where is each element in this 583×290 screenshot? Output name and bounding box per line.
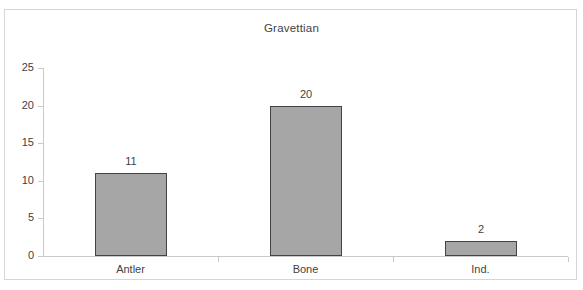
- x-axis-boundary-tick: [568, 257, 569, 262]
- bar-value-label-bone: 20: [266, 88, 346, 100]
- y-axis-tick-label-5: 5: [4, 211, 34, 223]
- y-axis-tick-10: [38, 181, 43, 182]
- x-axis-line: [43, 256, 568, 257]
- x-axis-category-label-antler: Antler: [43, 263, 218, 275]
- x-axis-boundary-tick: [218, 257, 219, 262]
- bar-bone: [270, 106, 342, 256]
- y-axis-line: [43, 68, 44, 257]
- bar-value-label-antler: 11: [91, 155, 171, 167]
- y-axis-tick-label-25: 25: [4, 61, 34, 73]
- bar-chart-figure: Gravettian 0510152025 11Antler20Bone2Ind…: [0, 0, 583, 290]
- x-axis-boundary-tick: [393, 257, 394, 262]
- bar-value-label-ind: 2: [441, 223, 521, 235]
- y-axis-tick-label-15: 15: [4, 136, 34, 148]
- y-axis-tick-label-0: 0: [4, 249, 34, 261]
- y-axis-tick-0: [38, 256, 43, 257]
- bar-antler: [95, 173, 167, 256]
- x-axis-category-label-ind: Ind.: [393, 263, 568, 275]
- chart-title: Gravettian: [0, 22, 583, 34]
- y-axis-tick-25: [38, 68, 43, 69]
- y-axis-tick-20: [38, 106, 43, 107]
- y-axis-tick-label-10: 10: [4, 174, 34, 186]
- y-axis-tick-label-20: 20: [4, 99, 34, 111]
- y-axis-tick-5: [38, 218, 43, 219]
- x-axis-category-label-bone: Bone: [218, 263, 393, 275]
- bar-ind: [445, 241, 517, 256]
- y-axis-tick-15: [38, 143, 43, 144]
